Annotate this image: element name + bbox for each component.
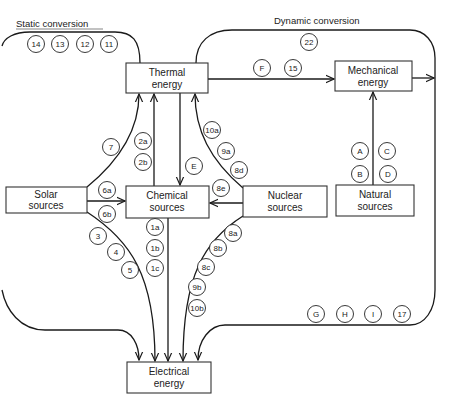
nuclear-sources-box: Nuclear sources (243, 186, 327, 217)
svg-text:energy: energy (154, 378, 185, 389)
svg-text:6b: 6b (103, 210, 112, 219)
svg-text:10b: 10b (190, 304, 204, 313)
svg-text:9a: 9a (222, 147, 231, 156)
svg-text:energy: energy (358, 77, 389, 88)
svg-text:sources: sources (28, 200, 63, 211)
svg-text:9b: 9b (193, 283, 202, 292)
svg-text:E: E (191, 162, 196, 171)
svg-text:1c: 1c (151, 264, 159, 273)
svg-text:energy: energy (152, 79, 183, 90)
svg-text:Chemical: Chemical (146, 190, 188, 201)
svg-text:Solar: Solar (34, 189, 58, 200)
svg-text:5: 5 (128, 266, 133, 275)
static-conversion-header: Static conversion (16, 18, 88, 29)
svg-text:1a: 1a (151, 223, 160, 232)
svg-text:13: 13 (56, 40, 65, 49)
electrical-energy-box: Electrical energy (127, 362, 211, 393)
svg-text:F: F (260, 64, 265, 73)
svg-text:Nuclear: Nuclear (268, 190, 303, 201)
svg-text:8a: 8a (229, 229, 238, 238)
svg-text:10a: 10a (205, 126, 219, 135)
mechanical-energy-box: Mechanical energy (335, 61, 412, 91)
svg-text:7: 7 (109, 143, 114, 152)
thermal-energy-box: Thermal energy (126, 63, 208, 93)
svg-text:8b: 8b (214, 244, 223, 253)
svg-text:D: D (385, 170, 391, 179)
svg-text:A: A (357, 147, 363, 156)
svg-text:Electrical: Electrical (149, 366, 190, 377)
svg-text:22: 22 (305, 38, 314, 47)
dynamic-conversion-header: Dynamic conversion (274, 15, 360, 26)
svg-text:17: 17 (398, 310, 407, 319)
svg-text:I: I (372, 310, 374, 319)
svg-text:8c: 8c (202, 263, 210, 272)
svg-text:Thermal: Thermal (149, 67, 186, 78)
svg-text:3: 3 (96, 232, 101, 241)
svg-text:Mechanical: Mechanical (348, 65, 399, 76)
svg-text:Natural: Natural (359, 189, 391, 200)
svg-text:8d: 8d (235, 166, 244, 175)
svg-text:2b: 2b (139, 158, 148, 167)
svg-text:1b: 1b (151, 244, 160, 253)
svg-text:11: 11 (105, 40, 114, 49)
svg-text:12: 12 (81, 40, 90, 49)
svg-text:8e: 8e (217, 184, 226, 193)
svg-text:15: 15 (289, 64, 298, 73)
svg-text:2a: 2a (139, 137, 148, 146)
svg-text:H: H (342, 310, 348, 319)
svg-text:sources: sources (267, 202, 302, 213)
svg-text:sources: sources (149, 202, 184, 213)
chemical-sources-box: Chemical sources (126, 186, 209, 218)
solar-sources-box: Solar sources (6, 187, 87, 213)
energy-conversion-diagram: Static conversion Dynamic conversion The… (0, 0, 451, 409)
svg-text:B: B (357, 170, 362, 179)
svg-text:C: C (384, 147, 390, 156)
svg-text:G: G (313, 310, 319, 319)
natural-sources-box: Natural sources (336, 185, 414, 216)
svg-text:sources: sources (357, 201, 392, 212)
svg-text:6a: 6a (103, 186, 112, 195)
svg-text:14: 14 (32, 40, 41, 49)
svg-text:4: 4 (114, 248, 119, 257)
